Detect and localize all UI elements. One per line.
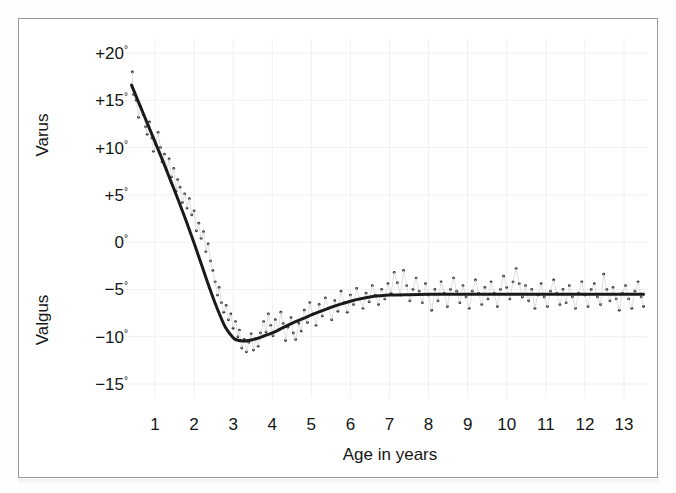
- x-tick-label: 11: [537, 415, 555, 434]
- x-tick-label: 7: [385, 415, 394, 434]
- x-tick-label: 10: [497, 415, 516, 434]
- x-axis-title: Age in years: [343, 445, 438, 464]
- growth-chart-plot: +20°+15°+10°+5°0°−5°−10°−15° 12345678910…: [0, 0, 676, 493]
- y-tick-label: −10°: [95, 328, 128, 347]
- y-tick-label: +10°: [95, 139, 128, 158]
- y-tick-label: +15°: [95, 91, 128, 110]
- x-tick-label: 1: [150, 415, 159, 434]
- x-tick-label: 13: [615, 415, 634, 434]
- figure-root: +20°+15°+10°+5°0°−5°−10°−15° 12345678910…: [0, 0, 676, 493]
- y-tick-label: +20°: [95, 44, 128, 63]
- y-tick-label: −15°: [95, 375, 128, 394]
- y-axis-title-valgus: Valgus: [33, 295, 52, 346]
- y-tick-label: 0°: [115, 233, 128, 252]
- x-tick-label: 5: [307, 415, 316, 434]
- x-tick-label: 12: [575, 415, 594, 434]
- y-axis-tick-labels: +20°+15°+10°+5°0°−5°−10°−15°: [95, 44, 128, 394]
- x-tick-label: 4: [268, 415, 277, 434]
- grid-lines: [126, 39, 648, 398]
- x-tick-label: 9: [463, 415, 472, 434]
- x-tick-label: 3: [228, 415, 237, 434]
- x-tick-label: 8: [424, 415, 433, 434]
- x-axis-tick-labels: 12345678910111213: [150, 415, 633, 434]
- y-tick-label: +5°: [105, 186, 128, 205]
- x-tick-label: 6: [346, 415, 355, 434]
- raw-data-polyline: [132, 72, 643, 352]
- scatter-points: [131, 70, 645, 353]
- y-axis-title-varus: Varus: [33, 113, 52, 156]
- x-tick-label: 2: [189, 415, 198, 434]
- y-tick-label: −5°: [105, 280, 128, 299]
